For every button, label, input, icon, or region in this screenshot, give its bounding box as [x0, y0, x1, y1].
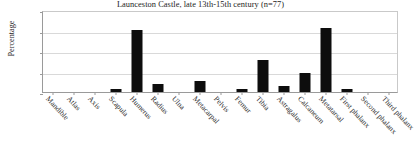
x-tick-label-slot: Metacarpal	[189, 94, 210, 160]
bar-slot[interactable]	[294, 12, 315, 92]
x-tick-label: Tibia	[254, 95, 271, 112]
bar-slot[interactable]	[357, 12, 378, 92]
bar[interactable]	[320, 28, 331, 92]
x-tick-label-slot: Femur	[230, 94, 251, 160]
x-tick-label: Atlas	[66, 95, 83, 112]
bar-slot[interactable]	[315, 12, 336, 92]
x-tick-label: Femur	[233, 95, 252, 115]
x-tick-label: Third phalanx	[380, 95, 415, 132]
x-tick-label-slot: Calcaneum	[293, 94, 314, 160]
bar-slot[interactable]	[64, 12, 85, 92]
x-tick-label-slot: Tibia	[251, 94, 272, 160]
x-tick-label-slot: Ulna	[168, 94, 189, 160]
plot-area: 010203040	[42, 11, 398, 93]
x-tick-label-slot: Third phalanx	[377, 94, 398, 160]
bar-slot[interactable]	[231, 12, 252, 92]
bar[interactable]	[299, 73, 310, 92]
x-tick-label-slot: Axis	[84, 94, 105, 160]
chart-title: Launceston Castle, late 13th-15th centur…	[0, 0, 401, 10]
bar-slot[interactable]	[190, 12, 211, 92]
x-axis-tick-labels: MandibleAtlasAxisScapulaHumerusRadiusUln…	[42, 94, 398, 160]
bar[interactable]	[153, 84, 164, 92]
x-tick-label-slot: Pelvis	[210, 94, 231, 160]
bar-slot[interactable]	[336, 12, 357, 92]
bar[interactable]	[132, 30, 143, 92]
y-axis-title: Percentage	[7, 4, 16, 74]
bar-slot[interactable]	[252, 12, 273, 92]
bar[interactable]	[257, 60, 268, 92]
bar-slot[interactable]	[85, 12, 106, 92]
x-tick-label: Axis	[86, 95, 102, 111]
bar-slot[interactable]	[169, 12, 190, 92]
bar-slot[interactable]	[106, 12, 127, 92]
bar-slot[interactable]	[211, 12, 232, 92]
x-tick-label: Pelvis	[212, 95, 231, 114]
bar-slot[interactable]	[43, 12, 64, 92]
x-tick-label-slot: Humerus	[126, 94, 147, 160]
bar-slot[interactable]	[148, 12, 169, 92]
bar-series	[43, 12, 397, 92]
bar-slot[interactable]	[378, 12, 399, 92]
x-tick-label-slot: Metatarsal	[314, 94, 335, 160]
x-tick-label: Ulna	[170, 95, 186, 111]
x-tick-label-slot: Scapula	[105, 94, 126, 160]
x-tick-label-slot: Second phalanx	[356, 94, 377, 160]
x-tick-label-slot: Mandible	[42, 94, 63, 160]
bar-slot[interactable]	[127, 12, 148, 92]
bar-slot[interactable]	[273, 12, 294, 92]
x-tick-label-slot: Astragalus	[272, 94, 293, 160]
x-tick-label-slot: Radius	[147, 94, 168, 160]
bar[interactable]	[195, 81, 206, 92]
x-tick-label: Radius	[149, 95, 169, 116]
x-tick-label-slot: Atlas	[63, 94, 84, 160]
x-tick-label-slot: First phalanx	[335, 94, 356, 160]
